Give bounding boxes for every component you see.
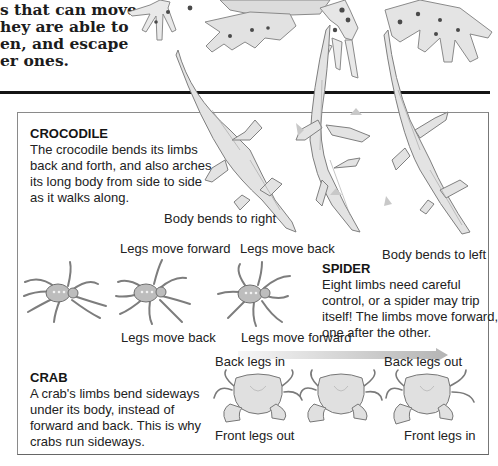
- crab-description: A crab's limbs bend sideways under its b…: [30, 386, 201, 450]
- crab-line: under its body, instead of: [30, 402, 201, 418]
- label-crab-front-legs-out: Front legs out: [215, 429, 295, 443]
- crab-heading: CRAB: [30, 370, 68, 386]
- crab-line: A crab's limbs bend sideways: [30, 386, 201, 402]
- crab-line: forward and back. This is why: [30, 418, 201, 434]
- crab-line: crabs run sideways.: [30, 434, 201, 450]
- label-crab-front-legs-in: Front legs in: [404, 429, 476, 443]
